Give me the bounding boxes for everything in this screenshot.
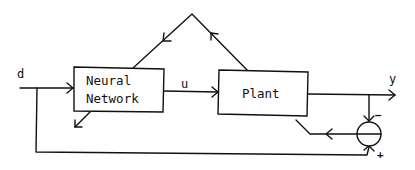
control-signal-u: u <box>164 77 218 97</box>
nn-adaptation-arrow <box>75 112 90 127</box>
signal-label-y: y <box>389 72 396 86</box>
signal-label-d: d <box>17 67 24 81</box>
plus-sign: + <box>377 148 384 161</box>
plant-label: Plant <box>242 86 280 101</box>
triangle-feedback-path <box>133 14 248 71</box>
nn-label-line2: Network <box>86 91 139 106</box>
plant-block: Plant <box>218 70 308 116</box>
minus-sign: − <box>375 109 382 122</box>
block-diagram: d Neural Network u Plant y − <box>0 0 415 170</box>
input-signal-d: d <box>17 67 73 93</box>
nn-label-line1: Neural <box>86 73 131 88</box>
neural-network-block: Neural Network <box>74 67 164 112</box>
output-feedback-path: − <box>364 95 382 122</box>
error-path <box>296 120 357 139</box>
output-signal-y: y <box>308 72 396 100</box>
signal-label-u: u <box>181 77 188 91</box>
